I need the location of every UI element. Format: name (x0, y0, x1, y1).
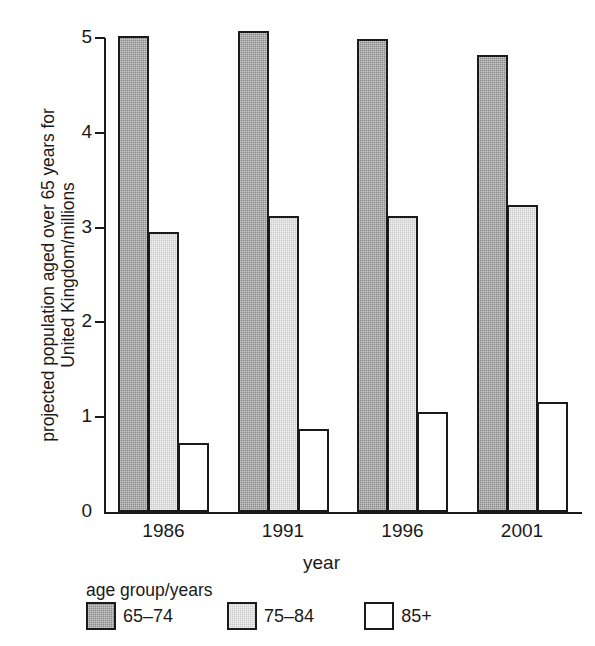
bar-1991-65-74 (238, 31, 269, 512)
bar-chart-figure: projected population aged over 65 years … (0, 0, 595, 646)
x-axis-title-text: year (303, 552, 340, 574)
y-axis-title: projected population aged over 65 years … (30, 40, 88, 510)
legend-title: age group/years (86, 580, 212, 601)
y-axis-tick-label: 2 (56, 311, 92, 331)
legend-label-75-84: 75–84 (264, 606, 314, 627)
legend-label-65-74: 65–74 (123, 606, 173, 627)
y-axis-tick-label-text: 2 (64, 311, 92, 330)
bar-1986-65-74 (118, 36, 149, 512)
plot-area (104, 38, 582, 512)
legend-swatch-85-plus (364, 602, 394, 630)
y-axis-tick-label-text: 3 (64, 217, 92, 236)
x-axis-tick-label-1991: 1991 (238, 520, 328, 542)
bar-1991-85+ (298, 429, 329, 512)
bar-1996-65-74 (357, 39, 388, 512)
y-axis-tick-label-text: 1 (64, 406, 92, 425)
y-axis-tick-label-text: 5 (64, 27, 92, 46)
legend-item-65-74: 65–74 (86, 602, 173, 630)
legend-item-75-84: 75–84 (227, 602, 314, 630)
legend-item-85-plus: 85+ (364, 602, 432, 630)
legend: 65–74 75–84 85+ (86, 602, 432, 630)
legend-label-85-plus: 85+ (401, 606, 432, 627)
y-axis-tick-label: 1 (56, 406, 92, 426)
x-axis-line (104, 512, 582, 514)
bar-1986-85+ (178, 443, 209, 512)
bar-2001-75-84 (507, 205, 538, 512)
y-axis-tick-label: 3 (56, 217, 92, 237)
bar-2001-85+ (537, 402, 568, 512)
y-axis-title-line-1: projected population aged over 65 years … (39, 108, 59, 441)
y-axis-tick-label: 0 (56, 501, 92, 521)
y-axis-tick-label: 5 (56, 27, 92, 47)
y-axis-title-line-2: United Kingdom/millions (59, 182, 79, 367)
bar-1996-85+ (417, 412, 448, 512)
bar-1986-75-84 (148, 232, 179, 512)
x-axis-title: year (0, 552, 595, 574)
bar-1996-75-84 (387, 216, 418, 512)
x-axis-tick-label-2001: 2001 (477, 520, 567, 542)
bar-1991-75-84 (268, 216, 299, 512)
y-axis-tick-label-text: 4 (64, 122, 92, 141)
y-axis-tick-label: 4 (56, 122, 92, 142)
x-axis-tick-label-1986: 1986 (119, 520, 209, 542)
legend-swatch-75-84 (227, 602, 257, 630)
x-axis-tick-label-1996: 1996 (358, 520, 448, 542)
y-axis-tick-label-text: 0 (64, 501, 92, 520)
legend-swatch-65-74 (86, 602, 116, 630)
bar-2001-65-74 (477, 55, 508, 512)
